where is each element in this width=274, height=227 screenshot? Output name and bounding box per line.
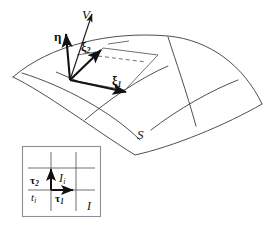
label-surface-S: S [137,128,144,141]
diagram-canvas [0,0,274,227]
label-vector-V: V [82,8,90,21]
vector-eta [66,34,70,80]
label-vector-xi1: ξ1 [112,75,121,89]
label-inset-cell: Ii [59,172,65,186]
surface-edge-top [13,35,262,104]
label-vector-tau2: τ2 [30,175,39,188]
surface-curve-b2 [151,80,238,130]
surface-edge-bottom [13,77,262,155]
parallelogram-tick-1 [108,41,129,44]
label-inset-point: ti [31,192,36,205]
surface-curve-a2 [168,37,196,126]
label-inset-domain: I [87,200,91,212]
label-vector-tau1: τ1 [55,193,64,206]
label-vector-xi2: ξ2 [81,41,90,55]
surface-curve-b1 [85,66,168,120]
parallelogram-dashed [98,56,146,62]
label-vector-eta: η [54,30,61,43]
figure-diagram: V η ξ2 ξ1 S τ2 Ii ti τ1 I [0,0,274,227]
